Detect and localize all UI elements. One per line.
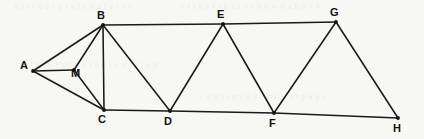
vertex-point-f [272, 111, 276, 115]
vertex-label-h: H [393, 123, 401, 134]
edge-AM [33, 70, 74, 71]
vertex-point-b [101, 23, 105, 27]
edge-DE [170, 24, 223, 111]
vertex-point-h [396, 116, 400, 120]
vertex-label-b: B [97, 10, 105, 21]
vertex-label-e: E [217, 9, 224, 20]
edge-EG [223, 22, 336, 24]
edge-BC [103, 25, 104, 110]
vertex-point-a [31, 69, 35, 73]
vertex-label-c: C [98, 114, 106, 125]
edge-AC [33, 71, 104, 110]
vertex-label-g: G [330, 7, 339, 18]
vertex-label-m: M [71, 68, 80, 79]
edge-CD [104, 110, 170, 111]
vertex-label-d: D [164, 116, 172, 127]
edge-MB [74, 25, 103, 70]
vertex-label-a: A [20, 60, 28, 71]
edges-group [33, 22, 398, 118]
vertex-point-g [334, 20, 338, 24]
edge-GH [336, 22, 398, 118]
vertex-point-e [221, 22, 225, 26]
vertex-point-d [168, 109, 172, 113]
edge-FH [274, 113, 398, 118]
edge-FG [274, 22, 336, 113]
truss-graph-svg [0, 0, 424, 139]
edge-EF [223, 24, 274, 113]
diagram-canvas: a s t r u c t u r a l a n a l y s i so f… [0, 0, 424, 139]
edge-BE [103, 24, 223, 25]
edge-DF [170, 111, 274, 113]
edge-AB [33, 25, 103, 71]
vertex-label-f: F [269, 118, 276, 129]
vertex-point-c [102, 108, 106, 112]
edge-BD [103, 25, 170, 111]
